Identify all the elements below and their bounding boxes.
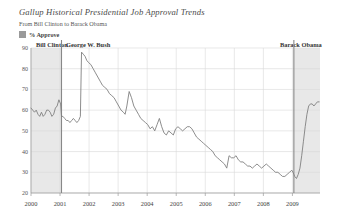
svg-text:20: 20: [22, 190, 28, 196]
svg-text:2004: 2004: [141, 200, 155, 207]
svg-text:2005: 2005: [170, 200, 183, 207]
chart-page: Gallup Historical Presidential Job Appro…: [0, 0, 340, 222]
svg-text:2007: 2007: [228, 200, 242, 207]
svg-text:90: 90: [22, 45, 28, 51]
svg-text:2001: 2001: [54, 200, 67, 207]
svg-text:80: 80: [22, 66, 28, 72]
gridlines: [31, 48, 320, 193]
svg-text:2003: 2003: [112, 200, 125, 207]
svg-text:2006: 2006: [199, 200, 212, 207]
data-line: [31, 52, 319, 178]
svg-text:2002: 2002: [83, 200, 96, 207]
svg-text:60: 60: [22, 107, 28, 113]
president-dividers: [61, 40, 293, 193]
svg-text:30: 30: [22, 169, 28, 175]
svg-text:50: 50: [22, 128, 28, 134]
plot-area: 2030405060708090 20002001200220032004200…: [0, 0, 340, 222]
svg-text:2000: 2000: [25, 200, 38, 207]
x-axis-ticks: 2000200120022003200420052006200720082009: [25, 193, 299, 207]
plot-frame: [31, 48, 320, 193]
shaded-regions: [31, 48, 320, 193]
approval-line-chart: 2030405060708090 20002001200220032004200…: [0, 0, 340, 222]
svg-text:2008: 2008: [257, 200, 270, 207]
svg-text:2009: 2009: [286, 200, 299, 207]
svg-text:70: 70: [22, 86, 28, 92]
svg-text:40: 40: [22, 149, 28, 155]
y-axis-ticks: 2030405060708090: [22, 45, 28, 196]
